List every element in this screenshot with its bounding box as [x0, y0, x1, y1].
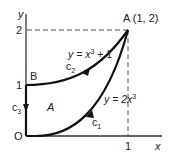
x-tick-1: 1 — [125, 140, 131, 152]
c3-label: c3 — [12, 101, 21, 115]
origin-label: O — [14, 130, 23, 142]
y-axis-label: y — [17, 8, 25, 20]
c2-equation: y = x3 + 1 — [67, 48, 112, 60]
c1-label: c1 — [92, 116, 101, 130]
y-tick-2: 2 — [16, 24, 22, 36]
point-a-label: A (1, 2) — [123, 12, 158, 24]
c1-equation: y = 2x3 — [103, 93, 136, 105]
curve-c1 — [26, 30, 128, 136]
x-axis-label: x — [154, 140, 161, 152]
point-b-label: B — [30, 70, 37, 82]
arrow-c3-icon — [23, 104, 29, 112]
line-integral-diagram: y 2 1 O 1 x A (1, 2) B y = x3 + 1 y = 2x… — [0, 0, 174, 158]
region-label: A — [46, 101, 54, 113]
c2-label: c2 — [66, 60, 75, 74]
y-tick-1: 1 — [16, 79, 22, 91]
